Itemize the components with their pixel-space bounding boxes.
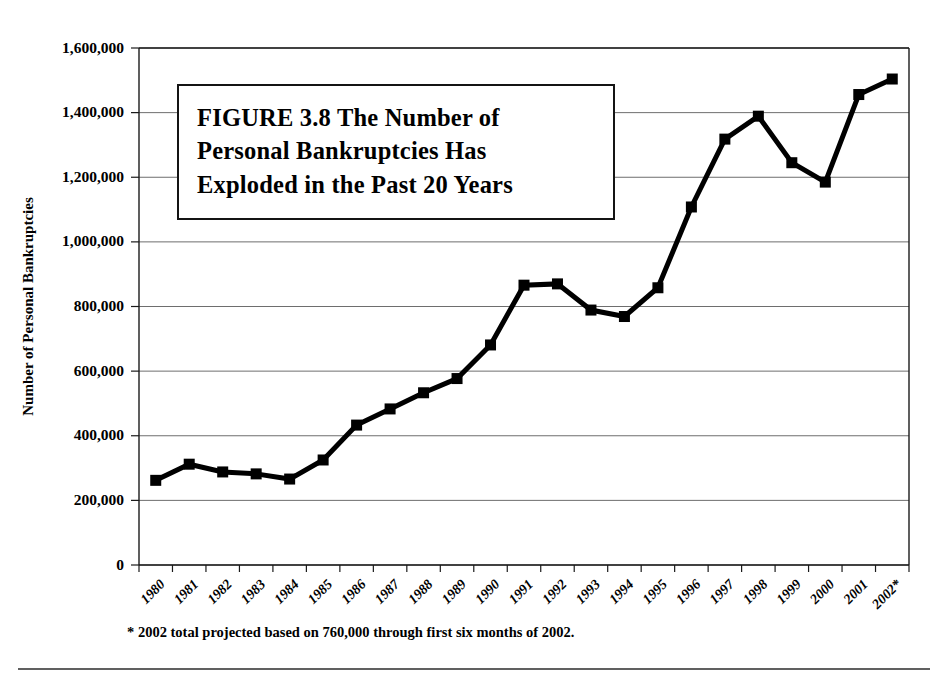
data-point-marker: [217, 466, 228, 477]
x-tick-label: 2000: [806, 577, 837, 608]
data-point-marker: [318, 454, 329, 465]
figure-title-box: FIGURE 3.8 The Number of Personal Bankru…: [177, 84, 615, 220]
data-point-marker: [585, 305, 596, 316]
y-tick-label: 200,000: [74, 491, 125, 508]
x-tick-label: 1997: [707, 576, 738, 607]
y-tick-label: 400,000: [74, 426, 125, 443]
x-tick-label: 1991: [506, 577, 536, 607]
x-tick-label: 1987: [372, 576, 403, 607]
data-point-marker: [251, 468, 262, 479]
figure-title-line-2: Personal Bankruptcies Has: [197, 134, 597, 167]
x-tick-label: 1995: [640, 577, 670, 607]
y-tick-label: 0: [116, 556, 124, 573]
figure-container: 0200,000400,000600,000800,0001,000,0001,…: [0, 0, 945, 687]
x-tick-label: 1994: [606, 577, 636, 607]
x-tick-label: 1989: [439, 577, 469, 607]
x-tick-label: 1988: [405, 577, 435, 607]
data-point-marker: [820, 177, 831, 188]
x-tick-label: 2002*: [868, 576, 905, 613]
y-tick-labels-group: 0200,000400,000600,000800,0001,000,0001,…: [62, 39, 124, 573]
x-tick-label: 1990: [472, 577, 502, 607]
data-point-marker: [485, 339, 496, 350]
x-tick-label: 1980: [137, 577, 167, 607]
data-point-marker: [619, 311, 630, 322]
data-point-marker: [351, 420, 362, 431]
data-point-marker: [150, 475, 161, 486]
data-point-marker: [519, 280, 530, 291]
x-tick-label: 1984: [271, 577, 301, 607]
x-tick-label: 1996: [673, 577, 703, 607]
data-point-marker: [452, 373, 463, 384]
y-tick-label: 1,000,000: [62, 232, 124, 249]
y-axis-title-group: Number of Personal Bankruptcies: [20, 197, 36, 416]
y-tick-label: 600,000: [74, 362, 125, 379]
y-tick-label: 1,600,000: [62, 39, 124, 56]
x-tick-label: 2001: [840, 577, 871, 608]
data-point-marker: [552, 278, 563, 289]
x-tick-label: 1986: [338, 577, 368, 607]
data-point-marker: [284, 474, 295, 485]
x-tick-label: 1992: [539, 577, 569, 607]
y-tick-marks-group: [131, 48, 139, 565]
data-point-marker: [652, 282, 663, 293]
figure-footnote: * 2002 total projected based on 760,000 …: [127, 624, 574, 641]
data-point-marker: [184, 459, 195, 470]
x-tick-label: 1982: [204, 577, 234, 607]
data-point-marker: [786, 157, 797, 168]
x-tick-label: 1983: [238, 577, 268, 607]
y-axis-title: Number of Personal Bankruptcies: [20, 197, 36, 416]
y-tick-label: 1,400,000: [62, 103, 124, 120]
x-tick-label: 1993: [573, 577, 603, 607]
x-tick-labels-group: 1980198119821983198419851986198719881989…: [137, 576, 905, 613]
data-point-marker: [385, 403, 396, 414]
x-tick-marks-group: [139, 565, 909, 572]
y-tick-label: 800,000: [74, 297, 125, 314]
figure-title-line-3: Exploded in the Past 20 Years: [197, 168, 597, 201]
figure-title-line-1: FIGURE 3.8 The Number of: [197, 101, 597, 134]
x-tick-label: 1999: [774, 577, 804, 607]
x-tick-label: 1985: [305, 577, 335, 607]
y-tick-label: 1,200,000: [62, 168, 124, 185]
data-point-marker: [686, 201, 697, 212]
data-point-marker: [887, 74, 898, 85]
data-point-marker: [753, 111, 764, 122]
x-tick-label: 1998: [740, 577, 770, 607]
data-point-marker: [853, 89, 864, 100]
data-point-marker: [418, 387, 429, 398]
x-tick-label: 1981: [171, 577, 201, 607]
data-point-marker: [719, 134, 730, 145]
